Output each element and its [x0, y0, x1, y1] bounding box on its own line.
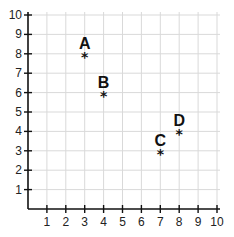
point-label: A: [79, 35, 91, 52]
x-tick-label: 1: [44, 215, 51, 229]
data-point-a: *A: [79, 35, 91, 65]
point-label: C: [155, 132, 167, 149]
x-tick-label: 7: [157, 215, 164, 229]
y-tick-label: 8: [15, 47, 22, 61]
x-tick-label: 8: [176, 215, 183, 229]
x-tick-label: 2: [62, 215, 69, 229]
x-tick-label: 5: [119, 215, 126, 229]
x-tick-label: 3: [81, 215, 88, 229]
data-point-c: *C: [155, 132, 167, 162]
y-tick-label: 9: [15, 27, 22, 41]
x-tick-label: 10: [210, 215, 224, 229]
axes: [28, 12, 220, 209]
point-label: D: [173, 112, 185, 129]
data-point-b: *B: [98, 74, 110, 104]
y-tick-label: 2: [15, 163, 22, 177]
grid-lines: [28, 12, 220, 209]
y-tick-label: 4: [15, 124, 22, 138]
x-tick-label: 4: [100, 215, 107, 229]
y-tick-label: 10: [9, 8, 23, 22]
data-point-d: *D: [173, 112, 185, 142]
x-tick-label: 9: [195, 215, 202, 229]
y-tick-label: 5: [15, 105, 22, 119]
point-label: B: [98, 74, 110, 91]
y-tick-label: 1: [15, 183, 22, 197]
x-tick-label: 6: [138, 215, 145, 229]
scatter-plot: 12345678910 12345678910 *A*B*C*D: [0, 0, 234, 237]
y-tick-label: 3: [15, 144, 22, 158]
y-tick-label: 6: [15, 86, 22, 100]
y-tick-label: 7: [15, 66, 22, 80]
